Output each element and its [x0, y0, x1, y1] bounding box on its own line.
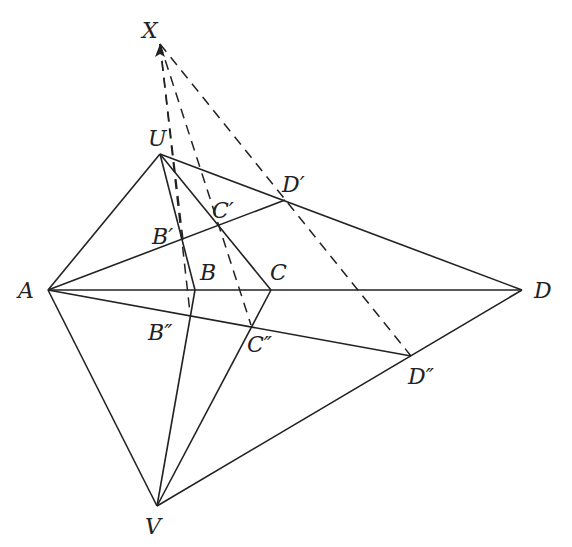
label-v: V: [145, 514, 163, 539]
label-c-double-prime: C″: [247, 332, 273, 357]
label-d-prime: D′: [281, 172, 305, 197]
label-d-double-prime: D″: [407, 364, 435, 389]
label-c: C: [270, 260, 287, 285]
solid-lines: [48, 154, 522, 506]
label-d: D: [533, 278, 552, 303]
label-b: B: [199, 260, 216, 285]
segment-v-d: [157, 290, 522, 506]
segment-a-d2: [48, 290, 411, 356]
label-x: X: [140, 18, 159, 43]
projective-geometry-diagram: X U A B C D V B′ C′ D′ B″ C″ D″: [0, 0, 572, 547]
arrowhead-icon: [155, 44, 165, 57]
segment-a-u: [48, 154, 160, 290]
label-u: U: [148, 126, 168, 151]
segment-v-c: [157, 290, 271, 506]
segment-a-v: [48, 290, 157, 506]
label-c-prime: C′: [212, 198, 234, 223]
label-b-prime: B′: [151, 224, 173, 249]
point-labels: X U A B C D V B′ C′ D′ B″ C″ D″: [16, 18, 552, 539]
label-a: A: [16, 278, 34, 303]
label-b-double-prime: B″: [147, 320, 173, 345]
